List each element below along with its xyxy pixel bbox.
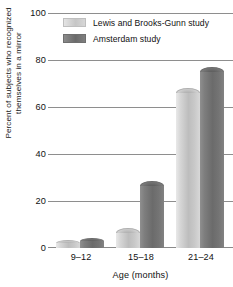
bar-chart: Percent of subjects who recognized thems… [0,0,233,287]
bar-amsterdam-21-24[interactable] [200,67,224,248]
y-axis-title: Percent of subjects who recognized thems… [1,0,27,173]
bar-group-21-24 [176,13,226,248]
bar-lewis-15-18[interactable] [116,228,140,248]
bar-body [56,243,80,248]
bar-amsterdam-9-12[interactable] [80,238,104,248]
dark-gray-swatch-icon [63,34,86,43]
y-tick-mark-20 [226,201,233,202]
legend-label-lewis: Lewis and Brooks-Gunn study [93,18,209,28]
x-tick-label-21-24: 21–24 [171,252,231,262]
bar-body [116,233,140,248]
x-tick-label-15-18: 15–18 [111,252,171,262]
plot-area [48,13,233,248]
x-axis-title: Age (months) [48,270,233,280]
bar-lewis-21-24[interactable] [176,88,200,248]
bar-lewis-9-12[interactable] [56,240,80,248]
y-tick-mark-40 [226,154,233,155]
bar-body [140,186,164,248]
bar-body [200,72,224,248]
y-tick-label-100: 100 [20,8,46,18]
light-gray-swatch-icon [63,18,86,27]
legend-item-amsterdam[interactable]: Amsterdam study [63,32,209,45]
y-tick-label-80: 80 [20,55,46,65]
bar-body [80,241,104,248]
legend-item-lewis[interactable]: Lewis and Brooks-Gunn study [63,16,209,29]
bar-group-9-12 [56,13,106,248]
y-tick-label-60: 60 [20,102,46,112]
y-tick-label-0: 0 [20,243,46,253]
legend: Lewis and Brooks-Gunn study Amsterdam st… [63,16,209,48]
bar-group-15-18 [116,13,166,248]
y-tick-mark-80 [226,60,233,61]
y-axis-title-text: Percent of subjects who recognized thems… [4,7,25,138]
x-tick-label-9-12: 9–12 [51,252,111,262]
y-tick-label-20: 20 [20,196,46,206]
bar-amsterdam-15-18[interactable] [140,181,164,248]
y-tick-label-40: 40 [20,149,46,159]
bar-body [176,93,200,248]
y-tick-mark-60 [226,107,233,108]
legend-label-amsterdam: Amsterdam study [93,34,161,44]
